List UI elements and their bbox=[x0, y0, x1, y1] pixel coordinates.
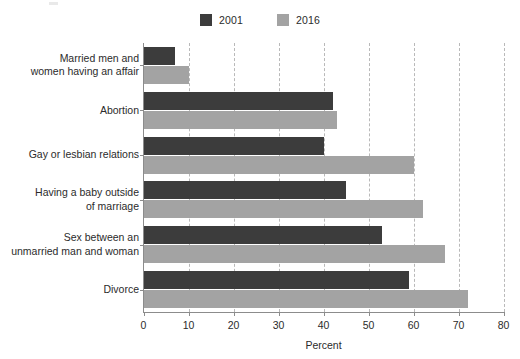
legend-swatch-2001 bbox=[200, 14, 212, 26]
x-tick-label-10: 10 bbox=[183, 319, 195, 331]
bar-chart: 2001 2016 Married men andwomen having an… bbox=[0, 0, 520, 359]
category-label: Sex between anunmarried man and woman bbox=[0, 231, 139, 258]
bar bbox=[144, 226, 383, 244]
x-tick-label-80: 80 bbox=[498, 319, 510, 331]
legend-label-2016: 2016 bbox=[296, 15, 320, 26]
category-label-line: Abortion bbox=[0, 104, 139, 118]
category-tick bbox=[140, 65, 144, 66]
x-axis-title: Percent bbox=[305, 339, 341, 351]
x-tick-50 bbox=[369, 312, 370, 316]
bar bbox=[144, 200, 423, 218]
x-tick-70 bbox=[459, 312, 460, 316]
bar bbox=[144, 92, 333, 110]
category-label-line: Having a baby outside bbox=[0, 186, 139, 200]
bar bbox=[144, 47, 176, 65]
legend-label-2001: 2001 bbox=[219, 15, 243, 26]
x-tick-label-20: 20 bbox=[228, 319, 240, 331]
x-tick-label-70: 70 bbox=[453, 319, 465, 331]
category-label-line: Divorce bbox=[0, 283, 139, 297]
legend-swatch-2016 bbox=[277, 14, 289, 26]
bar bbox=[144, 245, 446, 263]
bar bbox=[144, 111, 338, 129]
category-label: Divorce bbox=[0, 283, 139, 297]
x-tick-30 bbox=[279, 312, 280, 316]
x-tick-label-50: 50 bbox=[363, 319, 375, 331]
category-tick bbox=[140, 110, 144, 111]
x-tick-10 bbox=[189, 312, 190, 316]
bar bbox=[144, 290, 468, 308]
gridline-80 bbox=[504, 43, 505, 312]
bar bbox=[144, 137, 324, 155]
x-tick-80 bbox=[504, 312, 505, 316]
category-label-line: of marriage bbox=[0, 200, 139, 214]
category-label: Married men andwomen having an affair bbox=[0, 52, 139, 79]
x-tick-20 bbox=[234, 312, 235, 316]
x-tick-40 bbox=[324, 312, 325, 316]
x-tick-0 bbox=[144, 312, 145, 316]
x-tick-label-40: 40 bbox=[318, 319, 330, 331]
bar bbox=[144, 271, 410, 289]
x-tick-label-60: 60 bbox=[408, 319, 420, 331]
bar bbox=[144, 181, 347, 199]
x-tick-label-30: 30 bbox=[273, 319, 285, 331]
category-label-line: Married men and bbox=[0, 52, 139, 66]
legend-entry-2001: 2001 bbox=[200, 14, 243, 26]
category-label: Having a baby outsideof marriage bbox=[0, 186, 139, 213]
category-label-line: women having an affair bbox=[0, 65, 139, 79]
bar bbox=[144, 156, 414, 174]
category-label-line: Gay or lesbian relations bbox=[0, 148, 139, 162]
category-label-line: Sex between an bbox=[0, 231, 139, 245]
category-label-line: unmarried man and woman bbox=[0, 245, 139, 259]
bar bbox=[144, 66, 189, 84]
category-tick bbox=[140, 245, 144, 246]
x-tick-60 bbox=[414, 312, 415, 316]
x-tick-label-0: 0 bbox=[141, 319, 147, 331]
scan-artifact bbox=[49, 2, 58, 5]
gridline-70 bbox=[459, 43, 460, 312]
category-label: Abortion bbox=[0, 104, 139, 118]
category-tick bbox=[140, 200, 144, 201]
category-label: Gay or lesbian relations bbox=[0, 148, 139, 162]
category-tick bbox=[140, 155, 144, 156]
category-tick bbox=[140, 290, 144, 291]
category-axis-labels: Married men andwomen having an affairAbo… bbox=[0, 43, 139, 312]
gridline-60 bbox=[414, 43, 415, 312]
legend-entry-2016: 2016 bbox=[277, 14, 320, 26]
plot-area: 01020304050607080 Percent bbox=[144, 43, 504, 312]
chart-legend: 2001 2016 bbox=[0, 14, 520, 26]
